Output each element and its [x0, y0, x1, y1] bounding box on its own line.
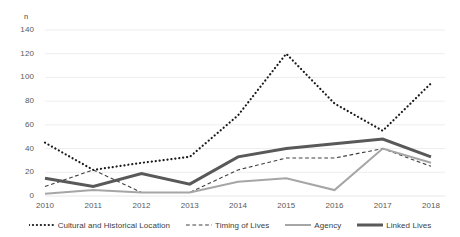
y-tick-label: 120 — [8, 49, 34, 58]
series-line-agency — [45, 149, 431, 194]
legend-swatch-timing-of-lives — [186, 221, 212, 229]
series-line-cultural-and-historical-location — [45, 54, 431, 170]
line-chart-figure: n 020406080100120140 2010201120122013201… — [0, 0, 460, 237]
series-line-timing-of-lives — [45, 149, 431, 193]
x-tick-label: 2017 — [363, 201, 403, 210]
legend-entry-agency: Agency — [285, 221, 341, 230]
y-axis-unit-label: n — [24, 12, 28, 21]
x-tick-label: 2016 — [315, 201, 355, 210]
legend-label-agency: Agency — [314, 221, 341, 230]
legend-swatch-cultural-and-historical-location — [29, 221, 55, 229]
legend-swatch-linked-lives — [357, 221, 383, 229]
legend-label-linked-lives: Linked Lives — [386, 221, 431, 230]
x-tick-label: 2015 — [266, 201, 306, 210]
gridlines — [45, 30, 445, 196]
x-tick-label: 2011 — [73, 201, 113, 210]
chart-legend: Cultural and Historical LocationTiming o… — [0, 216, 460, 234]
legend-label-timing-of-lives: Timing of Lives — [215, 221, 269, 230]
y-tick-label: 40 — [8, 144, 34, 153]
x-tick-label: 2018 — [411, 201, 451, 210]
y-tick-label: 140 — [8, 25, 34, 34]
legend-entry-linked-lives: Linked Lives — [357, 221, 431, 230]
series-line-linked-lives — [45, 139, 431, 186]
legend-swatch-agency — [285, 221, 311, 229]
y-tick-label: 20 — [8, 167, 34, 176]
y-tick-label: 60 — [8, 120, 34, 129]
x-tick-label: 2012 — [122, 201, 162, 210]
y-tick-label: 80 — [8, 96, 34, 105]
x-tick-label: 2013 — [170, 201, 210, 210]
x-tick-label: 2014 — [218, 201, 258, 210]
legend-entry-cultural-and-historical-location: Cultural and Historical Location — [29, 221, 170, 230]
x-tick-label: 2010 — [25, 201, 65, 210]
legend-entry-timing-of-lives: Timing of Lives — [186, 221, 269, 230]
y-tick-label: 100 — [8, 72, 34, 81]
legend-label-cultural-and-historical-location: Cultural and Historical Location — [58, 221, 170, 230]
y-tick-label: 0 — [8, 191, 34, 200]
plot-area: n 020406080100120140 2010201120122013201… — [0, 0, 460, 237]
